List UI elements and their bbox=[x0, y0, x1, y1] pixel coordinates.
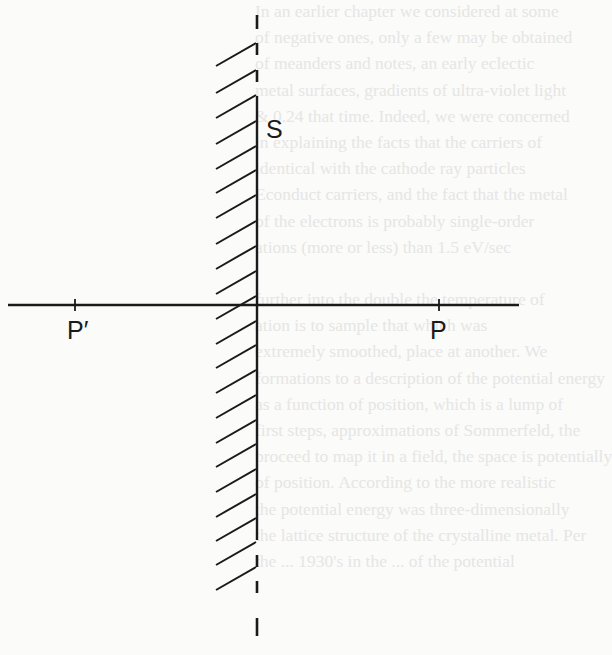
surface-label-s: S bbox=[266, 117, 283, 142]
point-label-p-prime: P′ bbox=[67, 318, 88, 343]
surface-hatching bbox=[216, 43, 256, 590]
point-label-p: P bbox=[430, 318, 447, 343]
